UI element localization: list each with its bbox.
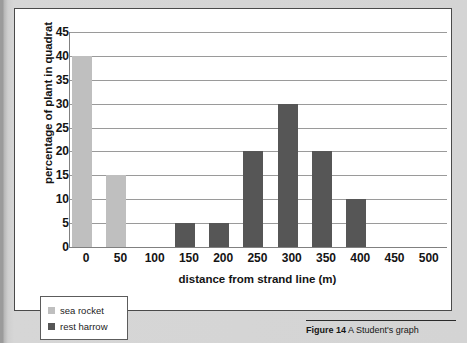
bar-slot-250	[241, 32, 275, 247]
bar-slot-200	[207, 32, 241, 247]
bar-slot-0	[70, 32, 104, 247]
y-tick-5: 5	[37, 217, 69, 229]
legend-label: rest harrow	[60, 321, 108, 332]
bar-slot-500	[413, 32, 447, 247]
x-tick-300: 300	[275, 251, 309, 265]
page-background: percentage of plant in quadrat 454035302…	[0, 0, 467, 343]
bar-slot-350	[310, 32, 344, 247]
caption-divider	[306, 320, 456, 321]
x-tick-500: 500	[412, 251, 446, 265]
x-tick-50: 50	[103, 251, 137, 265]
figure-caption-block: Figure 14 A Student's graph	[306, 320, 456, 335]
bar-sea-rocket-50[interactable]	[106, 175, 126, 247]
x-tick-100: 100	[138, 251, 172, 265]
y-tick-10: 10	[37, 193, 69, 205]
x-tick-150: 150	[172, 251, 206, 265]
figure-caption-text: A Student's graph	[346, 325, 419, 335]
y-axis-tick-labels: 454035302520151050	[37, 32, 69, 255]
y-tick-30: 30	[37, 98, 69, 110]
chart-panel: percentage of plant in quadrat 454035302…	[14, 8, 452, 311]
x-tick-0: 0	[69, 251, 103, 265]
bar-slot-100	[139, 32, 173, 247]
y-tick-20: 20	[37, 145, 69, 157]
bar-slot-450	[378, 32, 412, 247]
bar-rest-harrow-150[interactable]	[175, 223, 195, 247]
chart-legend: sea rocketrest harrow	[40, 296, 128, 340]
legend-swatch-icon	[48, 307, 55, 314]
x-axis-title: distance from strand line (m)	[69, 273, 446, 285]
legend-label: sea rocket	[60, 305, 104, 316]
x-tick-450: 450	[377, 251, 411, 265]
bar-slot-400	[344, 32, 378, 247]
figure-number: Figure 14	[306, 325, 346, 335]
y-tick-15: 15	[37, 169, 69, 181]
bar-slot-300	[276, 32, 310, 247]
bar-rest-harrow-250[interactable]	[243, 151, 263, 247]
bar-rest-harrow-350[interactable]	[312, 151, 332, 247]
y-tick-25: 25	[37, 122, 69, 134]
x-tick-350: 350	[309, 251, 343, 265]
legend-swatch-icon	[48, 323, 55, 330]
y-tick-45: 45	[37, 26, 69, 38]
x-tick-400: 400	[343, 251, 377, 265]
legend-item-rest-harrow[interactable]: rest harrow	[48, 318, 121, 334]
cut-off-header-text	[120, 0, 360, 7]
bar-rest-harrow-400[interactable]	[346, 199, 366, 247]
bar-sea-rocket-0[interactable]	[72, 56, 92, 247]
figure-caption: Figure 14 A Student's graph	[306, 325, 456, 335]
y-tick-40: 40	[37, 50, 69, 62]
gridline-0	[70, 247, 447, 248]
bar-rest-harrow-200[interactable]	[209, 223, 229, 247]
x-tick-250: 250	[240, 251, 274, 265]
plot-area	[69, 32, 447, 248]
y-tick-0: 0	[37, 241, 69, 253]
bar-slot-150	[173, 32, 207, 247]
x-tick-200: 200	[206, 251, 240, 265]
x-axis-tick-labels: 050100150200250300350400450500	[69, 251, 446, 265]
bar-slot-50	[104, 32, 138, 247]
y-tick-35: 35	[37, 74, 69, 86]
legend-item-sea-rocket[interactable]: sea rocket	[48, 302, 121, 318]
bar-series-group	[70, 32, 447, 247]
bar-rest-harrow-300[interactable]	[278, 104, 298, 247]
